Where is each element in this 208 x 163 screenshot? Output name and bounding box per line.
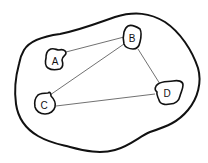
- node-D-label: D: [163, 88, 170, 99]
- node-B-label: B: [129, 33, 136, 44]
- edge-C-D: [56, 94, 155, 106]
- edges: [50, 37, 160, 106]
- edge-B-D: [138, 49, 160, 84]
- node-D[interactable]: D: [155, 81, 183, 105]
- node-A[interactable]: A: [45, 49, 66, 70]
- node-A-label: A: [52, 56, 59, 67]
- node-C[interactable]: C: [35, 92, 56, 114]
- graph-diagram: A B C D: [0, 0, 208, 163]
- node-C-label: C: [40, 100, 47, 111]
- node-B[interactable]: B: [123, 25, 141, 49]
